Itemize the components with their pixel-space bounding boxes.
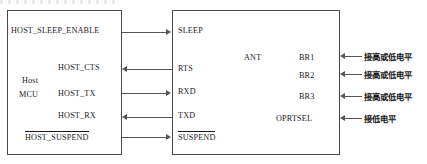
- block-diagram: HOST_SLEEP_ENABLE Host MCU HOST_CTS HOST…: [0, 0, 427, 164]
- wire-host-rx: [127, 117, 172, 118]
- pin-label-rts: RTS: [178, 64, 193, 73]
- pin-label-rxd: RXD: [178, 87, 196, 96]
- host-block-name-line2: MCU: [19, 90, 38, 99]
- pin-label-br3: BR3: [299, 92, 314, 101]
- wire-oprtsel: [345, 118, 362, 119]
- pin-label-oprtsel: OPRTSEL: [276, 114, 312, 123]
- signal-label-host-suspend: HOST_SUSPEND: [25, 131, 89, 142]
- arrow-left-icon-br2: [340, 71, 345, 77]
- annotation-oprtsel: 接低电平: [364, 112, 396, 124]
- arrow-left-icon-br3: [340, 93, 345, 99]
- wire-br1: [345, 56, 362, 57]
- wire-host-cts: [127, 69, 172, 70]
- host-block-name-line1: Host: [22, 76, 38, 85]
- scan-artifact-strip: [0, 0, 120, 4]
- annotation-br3: 接高或低电平: [364, 90, 412, 102]
- signal-label-host-tx: HOST_TX: [58, 89, 95, 98]
- arrow-left-icon-br1: [340, 53, 345, 59]
- arrow-left-icon-oprtsel: [340, 115, 345, 121]
- annotation-br2: 接高或低电平: [364, 68, 412, 80]
- wire-host-tx: [122, 93, 167, 94]
- arrow-left-icon-cts: [122, 66, 127, 72]
- pin-label-ant: ANT: [244, 53, 261, 62]
- pin-label-br2: BR2: [299, 71, 314, 80]
- annotation-br1: 接高或低电平: [364, 50, 412, 62]
- signal-label-host-cts: HOST_CTS: [58, 63, 100, 72]
- pin-label-txd: TXD: [178, 111, 195, 120]
- pin-label-br1: BR1: [299, 53, 314, 62]
- arrow-right-icon-rxd: [166, 90, 171, 96]
- wire-br2: [345, 74, 362, 75]
- wire-host-sleep-enable: [122, 32, 167, 33]
- arrow-right-icon-suspend: [166, 134, 171, 140]
- signal-label-host-rx: HOST_RX: [58, 111, 96, 120]
- pin-label-suspend: SUSPEND: [178, 131, 215, 142]
- arrow-left-icon-rx: [122, 114, 127, 120]
- wire-br3: [345, 96, 362, 97]
- wire-host-suspend: [122, 137, 167, 138]
- arrow-right-icon-sleep: [166, 29, 171, 35]
- signal-label-host-sleep-enable: HOST_SLEEP_ENABLE: [11, 26, 100, 35]
- pin-label-sleep: SLEEP: [178, 26, 203, 35]
